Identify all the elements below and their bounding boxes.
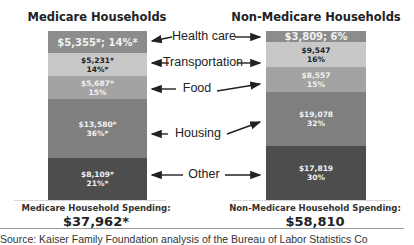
source-note: Source: Kaiser Family Foundation analysi…: [0, 233, 368, 245]
label-health-care: Health care: [172, 29, 236, 43]
non-medicare-total-value: $58,810: [285, 214, 344, 229]
label-housing: Housing: [175, 126, 221, 140]
label-food: Food: [183, 81, 212, 95]
medicare-total-label: Medicare Household Spending:: [21, 203, 170, 213]
label-other: Other: [188, 167, 219, 181]
non-medicare-total-label: Non-Medicare Household Spending:: [229, 203, 401, 213]
label-transportation: Transportation: [163, 55, 243, 69]
divider: [0, 228, 404, 229]
medicare-total-value: $37,962*: [63, 214, 129, 229]
